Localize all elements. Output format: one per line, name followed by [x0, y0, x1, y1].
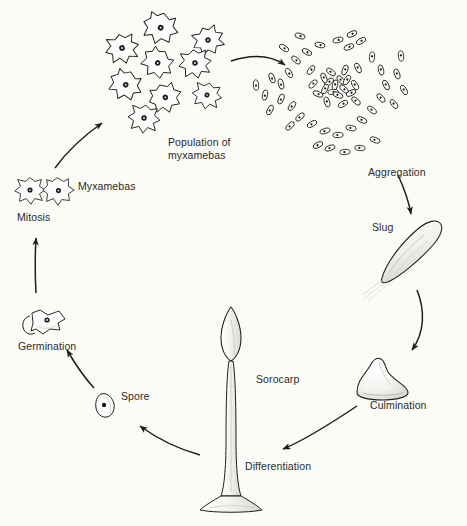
diagram-artwork — [0, 0, 467, 526]
label-spore: Spore — [121, 390, 150, 403]
label-population-of-myxamebas: Population of myxamebas — [168, 136, 231, 162]
slime-mold-life-cycle-diagram: Population of myxamebas Aggregation Slug… — [0, 0, 467, 526]
arrow-germination-to-mitosis — [35, 238, 36, 293]
label-aggregation: Aggregation — [368, 166, 426, 179]
label-sorocarp: Sorocarp — [256, 373, 299, 386]
label-myxamebas: Myxamebas — [78, 180, 136, 193]
label-slug: Slug — [372, 221, 393, 234]
label-differentiation: Differentiation — [245, 460, 311, 473]
label-mitosis: Mitosis — [17, 211, 50, 224]
label-germination: Germination — [18, 340, 76, 353]
label-culmination: Culmination — [370, 399, 427, 412]
